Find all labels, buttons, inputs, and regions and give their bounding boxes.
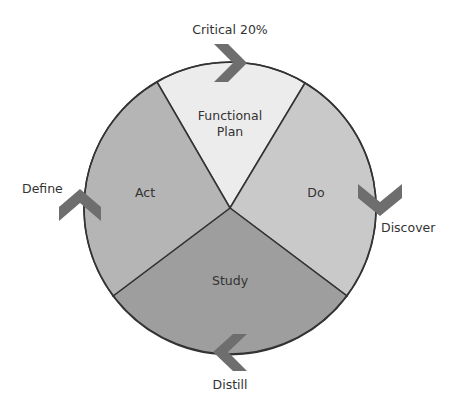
cycle-diagram: Functional Plan Do Study Act Critical 20… [0,0,461,410]
stage-define: Define [22,181,63,196]
stage-distill: Distill [213,377,248,392]
stage-critical: Critical 20% [192,22,268,37]
label-do: Do [307,185,324,200]
label-functional: Functional [198,108,262,123]
label-act: Act [135,185,155,200]
label-study: Study [212,273,249,288]
label-plan: Plan [217,124,244,139]
stage-discover: Discover [381,220,436,235]
